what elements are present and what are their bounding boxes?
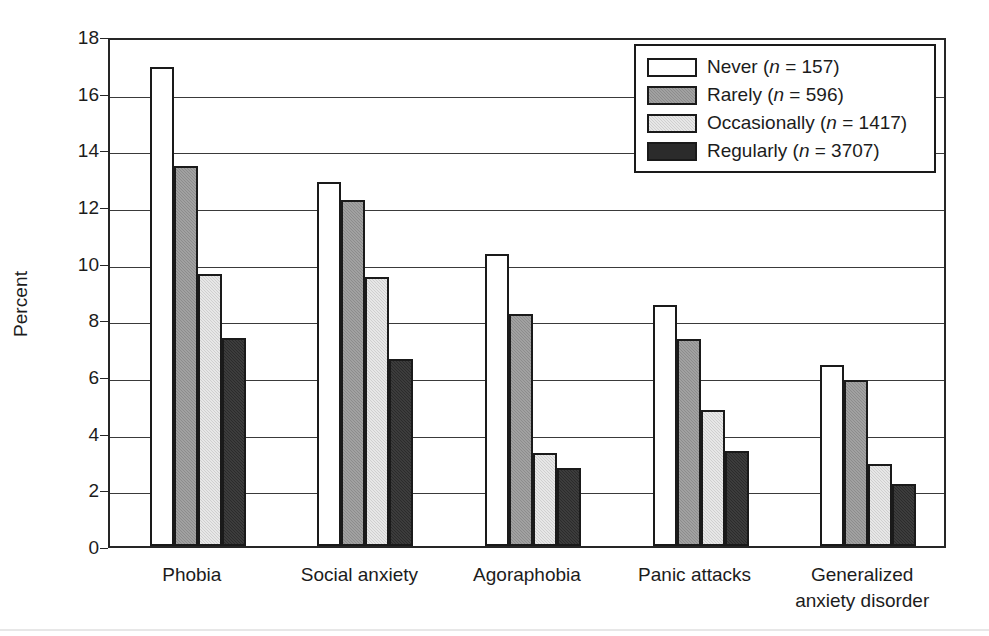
- bar-regularly-panic-attacks: [725, 451, 749, 546]
- x-label-phobia: Phobia: [108, 562, 276, 588]
- scan-artifact-line: [0, 629, 989, 631]
- bar-occasionally-phobia: [198, 274, 222, 546]
- y-axis-tick-labels: 181614121086420: [0, 0, 108, 636]
- x-label-agoraphobia: Agoraphobia: [443, 562, 611, 588]
- bar-occasionally-generalized: [868, 464, 892, 546]
- legend-label-never: Never (n = 157): [707, 56, 840, 78]
- y-tick-label-16: 16: [0, 84, 108, 106]
- legend-item-rarely[interactable]: Rarely (n = 596): [647, 81, 924, 109]
- bar-rarely-social-anxiety: [341, 200, 365, 546]
- bar-never-generalized: [820, 365, 844, 546]
- bar-occasionally-panic-attacks: [701, 410, 725, 546]
- bar-occasionally-social-anxiety: [365, 277, 389, 546]
- legend-item-regularly[interactable]: Regularly (n = 3707): [647, 137, 924, 165]
- legend-swatch-occasionally: [647, 114, 697, 133]
- y-tick-label-12: 12: [0, 197, 108, 219]
- x-label-panic-attacks: Panic attacks: [611, 562, 779, 588]
- bar-rarely-generalized: [844, 380, 868, 546]
- bar-never-social-anxiety: [317, 182, 341, 546]
- legend-swatch-rarely: [647, 86, 697, 105]
- y-tick-label-8: 8: [0, 310, 108, 332]
- legend-swatch-never: [647, 58, 697, 77]
- y-tick-label-2: 2: [0, 480, 108, 502]
- y-tick-label-0: 0: [0, 537, 108, 559]
- y-tick-label-10: 10: [0, 254, 108, 276]
- bar-chart-figure: Percent 181614121086420 PhobiaSocial anx…: [0, 0, 989, 636]
- y-tick-label-4: 4: [0, 424, 108, 446]
- bar-regularly-phobia: [222, 338, 246, 546]
- legend-item-occasionally[interactable]: Occasionally (n = 1417): [647, 109, 924, 137]
- legend-label-rarely: Rarely (n = 596): [707, 84, 844, 106]
- legend-label-occasionally: Occasionally (n = 1417): [707, 112, 907, 134]
- y-tick-label-14: 14: [0, 140, 108, 162]
- bar-rarely-phobia: [174, 166, 198, 546]
- x-label-generalized: Generalized anxiety disorder: [778, 562, 946, 614]
- bar-never-panic-attacks: [653, 305, 677, 546]
- legend-label-regularly: Regularly (n = 3707): [707, 140, 880, 162]
- bar-occasionally-agoraphobia: [533, 453, 557, 547]
- legend: Never (n = 157)Rarely (n = 596)Occasiona…: [634, 44, 936, 173]
- bar-regularly-agoraphobia: [557, 468, 581, 546]
- bar-never-phobia: [150, 67, 174, 546]
- gridline-10: [110, 267, 944, 268]
- y-tick-label-18: 18: [0, 27, 108, 49]
- legend-swatch-regularly: [647, 142, 697, 161]
- bar-regularly-generalized: [892, 484, 916, 546]
- x-label-social-anxiety: Social anxiety: [276, 562, 444, 588]
- bar-rarely-panic-attacks: [677, 339, 701, 546]
- y-tick-label-6: 6: [0, 367, 108, 389]
- bar-rarely-agoraphobia: [509, 314, 533, 546]
- bar-never-agoraphobia: [485, 254, 509, 546]
- legend-item-never[interactable]: Never (n = 157): [647, 53, 924, 81]
- bar-regularly-social-anxiety: [389, 359, 413, 546]
- gridline-12: [110, 210, 944, 211]
